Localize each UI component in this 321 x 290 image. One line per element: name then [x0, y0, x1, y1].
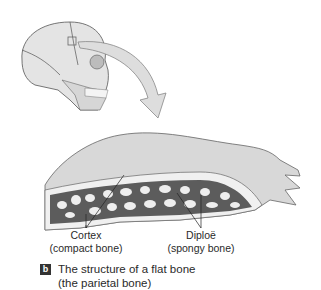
diploe-title: Diploë: [163, 229, 239, 242]
cortex-subtitle: (compact bone): [48, 242, 124, 255]
caption-line-1: The structure of a flat bone: [58, 262, 195, 276]
diploe-subtitle: (spongy bone): [163, 242, 239, 255]
cortex-label: Cortex (compact bone): [48, 229, 124, 255]
skull-image: [22, 22, 109, 110]
panel-letter-badge: b: [40, 264, 51, 275]
figure-caption: The structure of a flat bone (the pariet…: [58, 262, 195, 290]
flat-bone-section: [45, 133, 300, 230]
cortex-title: Cortex: [48, 229, 124, 242]
diploe-label: Diploë (spongy bone): [163, 229, 239, 255]
caption-line-2: (the parietal bone): [58, 276, 195, 290]
